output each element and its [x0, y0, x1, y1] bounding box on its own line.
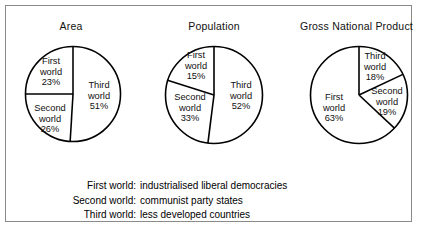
slice-label-line-2: world	[361, 97, 413, 108]
slice-label-line-2: world	[311, 103, 357, 114]
pie-slice-label-gnp-first-world: First world 63%	[311, 92, 357, 124]
slice-label-value: 23%	[28, 77, 74, 88]
legend-term-first-world: First world:	[6, 179, 140, 194]
pie-slice-label-area-first-world: First world 23%	[28, 56, 74, 88]
legend-term-second-world: Second world:	[6, 194, 140, 209]
legend-desc-second-world: communist party states	[140, 194, 243, 209]
legend: First world: industrialised liberal demo…	[6, 179, 413, 223]
panel-title-area: Area	[11, 20, 131, 32]
slice-label-line-2: world	[28, 67, 74, 78]
slice-label-line-1: First	[28, 56, 74, 67]
pie-slice-label-area-second-world: Second world 26%	[24, 103, 76, 135]
pie-slice-label-gnp-second-world: Second world 19%	[361, 86, 413, 118]
legend-row-third-world: Third world: less developed countries	[6, 208, 413, 223]
slice-label-line-1: Second	[24, 103, 76, 114]
slice-label-line-2: world	[218, 91, 264, 102]
slice-label-line-2: world	[164, 103, 216, 114]
pie-slice-label-gnp-third-world: Third world 18%	[352, 51, 398, 83]
legend-term-third-world: Third world:	[6, 208, 140, 223]
slice-label-line-1: Third	[352, 51, 398, 62]
slice-label-value: 19%	[361, 107, 413, 118]
slice-label-line-1: First	[174, 50, 218, 61]
pie-slice-label-population-second-world: Second world 33%	[164, 92, 216, 124]
pie-slice-label-area-third-world: Third world 51%	[76, 80, 122, 112]
slice-label-value: 63%	[311, 113, 357, 124]
slice-label-line-1: Second	[361, 86, 413, 97]
slice-label-line-2: world	[174, 61, 218, 72]
slice-label-line-1: Third	[218, 80, 264, 91]
slice-label-line-2: world	[24, 114, 76, 125]
slice-label-value: 33%	[164, 113, 216, 124]
figure-frame: Area Population Gross National Product F…	[5, 5, 412, 222]
slice-label-value: 51%	[76, 101, 122, 112]
pie-slice-label-population-first-world: First world 15%	[174, 50, 218, 82]
legend-row-second-world: Second world: communist party states	[6, 194, 413, 209]
legend-desc-third-world: less developed countries	[140, 208, 250, 223]
slice-label-value: 52%	[218, 101, 264, 112]
slice-label-line-1: First	[311, 92, 357, 103]
slice-label-line-2: world	[76, 91, 122, 102]
legend-desc-first-world: industrialised liberal democracies	[140, 179, 287, 194]
legend-row-first-world: First world: industrialised liberal demo…	[6, 179, 413, 194]
slice-label-line-1: Third	[76, 80, 122, 91]
slice-label-value: 18%	[352, 72, 398, 83]
slice-label-line-1: Second	[164, 92, 216, 103]
slice-label-value: 26%	[24, 124, 76, 135]
panel-title-population: Population	[154, 20, 274, 32]
slice-label-line-2: world	[352, 62, 398, 73]
pie-slice-label-population-third-world: Third world 52%	[218, 80, 264, 112]
slice-label-value: 15%	[174, 71, 218, 82]
panel-title-gross-national-product: Gross National Product	[294, 20, 419, 32]
